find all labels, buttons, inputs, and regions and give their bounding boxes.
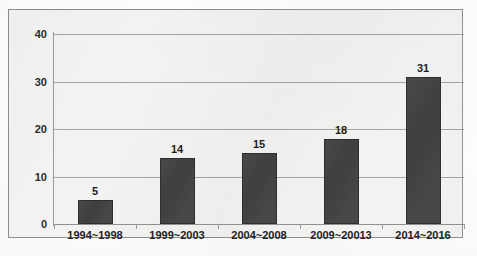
x-category-label: 1994~1998 xyxy=(67,230,122,241)
chart-frame: 40 30 20 10 0 5 14 15 18 31 xyxy=(8,9,463,238)
y-tick-label: 30 xyxy=(21,76,47,87)
bar-value-label: 5 xyxy=(92,186,98,197)
x-category-label: 1999~2003 xyxy=(149,230,204,241)
gridline-0-baseline xyxy=(54,224,464,225)
bar-value-label: 15 xyxy=(253,139,265,150)
bar-value-label: 14 xyxy=(171,144,183,155)
x-category-label: 2004~2008 xyxy=(231,230,286,241)
bar-value-label: 31 xyxy=(417,63,429,74)
plot-area xyxy=(54,34,464,224)
page-background: 40 30 20 10 0 5 14 15 18 31 xyxy=(0,0,477,256)
bar-value-label: 18 xyxy=(335,125,347,136)
gridline-20 xyxy=(54,129,464,130)
bar-1994-1998[interactable] xyxy=(78,200,113,224)
x-axis-tick xyxy=(136,224,137,229)
y-tick-label: 10 xyxy=(21,171,47,182)
x-axis-tick xyxy=(464,224,465,229)
y-tick-label: 0 xyxy=(21,219,47,230)
x-axis-tick xyxy=(54,224,55,229)
y-tick-label: 20 xyxy=(21,124,47,135)
x-category-label: 2009~20013 xyxy=(310,230,371,241)
gridline-40 xyxy=(54,34,464,35)
x-category-label: 2014~2016 xyxy=(395,230,450,241)
y-tick-label: 40 xyxy=(21,29,47,40)
bar-2014-2016[interactable] xyxy=(406,77,441,224)
bar-2009-20013[interactable] xyxy=(324,139,359,225)
bar-1999-2003[interactable] xyxy=(160,158,195,225)
x-axis-tick xyxy=(300,224,301,229)
x-axis-tick xyxy=(218,224,219,229)
gridline-30 xyxy=(54,82,464,83)
y-axis-tick-labels: 40 30 20 10 0 xyxy=(17,34,47,224)
x-axis-tick xyxy=(382,224,383,229)
bar-2004-2008[interactable] xyxy=(242,153,277,224)
